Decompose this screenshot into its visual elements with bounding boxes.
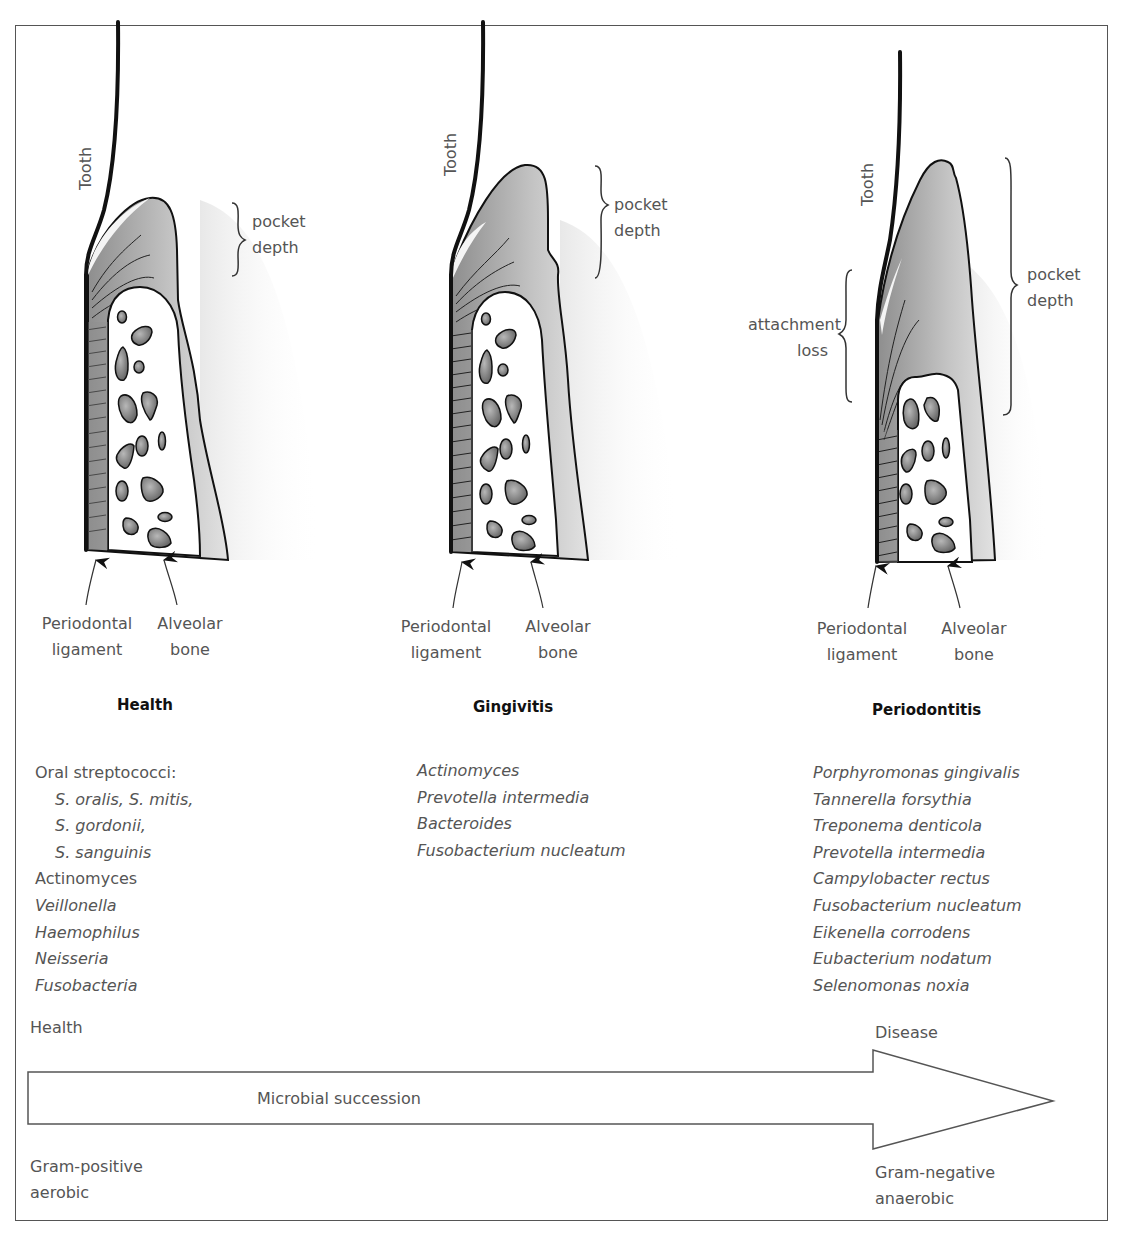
species-item: S. sanguinis [35,840,193,867]
bone-label-gingivitis: Alveolar bone [518,614,598,666]
pocket-depth-label-gingivitis: pocket depth [614,192,668,244]
bone-label-periodontitis: Alveolar bone [934,616,1014,668]
species-list-health: Oral streptococci: S. oralis, S. mitis, … [35,760,193,999]
panel-title-periodontitis: Periodontitis [872,701,981,719]
species-item: Campylobacter rectus [813,866,1022,893]
periodontitis-tooth-diagram [839,52,1048,608]
species-item: S. oralis, S. mitis, [35,787,193,814]
panel-title-health: Health [117,696,173,714]
species-item: Actinomyces [35,866,193,893]
species-item: Neisseria [35,946,193,973]
species-item: Porphyromonas gingivalis [813,760,1022,787]
pocket-depth-label-health: pocket depth [252,209,306,261]
species-item: Treponema denticola [813,813,1022,840]
succession-end-label: Disease [875,1020,938,1046]
succession-arrow [28,1050,1053,1149]
gram-positive-label: Gram-positive aerobic [30,1154,143,1206]
tooth-label-periodontitis: Tooth [858,163,877,206]
attachment-loss-label: attachment loss [748,312,828,364]
tooth-label-gingivitis: Tooth [441,133,460,176]
gram-negative-label: Gram-negative anaerobic [875,1160,995,1212]
succession-start-label: Health [30,1015,83,1041]
species-item: Oral streptococci: [35,760,193,787]
succession-arrow-label: Microbial succession [257,1086,421,1112]
ligament-label-health: Periodontal ligament [33,611,141,663]
species-item: Selenomonas noxia [813,973,1022,1000]
species-item: Fusobacterium nucleatum [417,838,626,865]
species-item: Eikenella corrodens [813,920,1022,947]
species-item: Fusobacterium nucleatum [813,893,1022,920]
species-item: Prevotella intermedia [417,785,626,812]
species-item: Prevotella intermedia [813,840,1022,867]
species-item: Actinomyces [417,758,626,785]
species-item: Tannerella forsythia [813,787,1022,814]
species-list-gingivitis: Actinomyces Prevotella intermedia Bacter… [417,758,626,864]
species-item: Bacteroides [417,811,626,838]
ligament-label-gingivitis: Periodontal ligament [392,614,500,666]
panel-title-gingivitis: Gingivitis [473,698,553,716]
health-tooth-diagram [86,22,320,605]
species-item: S. gordonii, [35,813,193,840]
tooth-label-health: Tooth [76,147,95,190]
species-item: Haemophilus [35,920,193,947]
species-item: Veillonella [35,893,193,920]
bone-label-health: Alveolar bone [150,611,230,663]
species-item: Fusobacteria [35,973,193,1000]
species-item: Eubacterium nodatum [813,946,1022,973]
pocket-depth-label-periodontitis: pocket depth [1027,262,1081,314]
gingivitis-tooth-diagram [451,22,680,608]
species-list-periodontitis: Porphyromonas gingivalis Tannerella fors… [813,760,1022,999]
ligament-label-periodontitis: Periodontal ligament [808,616,916,668]
